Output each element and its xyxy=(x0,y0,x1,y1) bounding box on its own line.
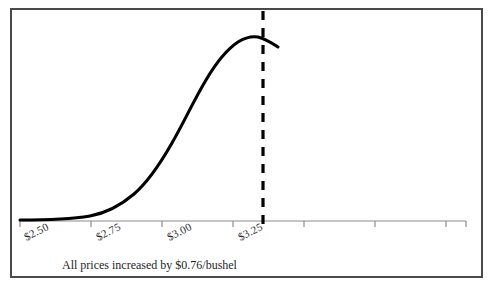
data-curve xyxy=(20,37,278,220)
chart-figure: $2.50 $2.75 $3.00 $3.25 All prices incre… xyxy=(0,0,493,288)
chart-caption: All prices increased by $0.76/bushel xyxy=(62,258,237,273)
plot-area xyxy=(0,0,493,288)
x-axis-ticks xyxy=(20,221,466,227)
